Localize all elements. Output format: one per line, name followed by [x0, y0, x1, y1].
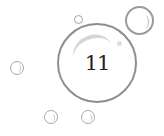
bubble-top-right[interactable]	[125, 6, 154, 35]
bubble-bottom-right[interactable]	[81, 110, 95, 124]
game-stage: 11	[0, 0, 164, 136]
bubble-bottom-left[interactable]	[44, 110, 58, 124]
bubble-shine-icon	[140, 15, 149, 29]
bubble-number: 11	[59, 25, 135, 101]
main-number-bubble[interactable]: 11	[57, 23, 137, 103]
bubble-shine-icon	[87, 114, 92, 121]
bubble-shine-icon	[50, 114, 55, 121]
bubble-left[interactable]	[10, 61, 24, 75]
bubble-small-top[interactable]	[74, 15, 83, 24]
bubble-shine-icon	[16, 65, 21, 72]
